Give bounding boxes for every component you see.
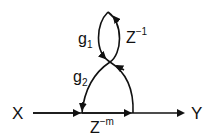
g2-arrow <box>82 102 83 109</box>
forward-delay-label: Z−m <box>90 116 114 136</box>
right-arc <box>110 62 133 113</box>
output-node-label: Y <box>191 104 202 123</box>
z-inv-label: Z−1 <box>126 26 148 46</box>
g2-label: g2 <box>73 68 88 88</box>
z-inv-arc <box>108 12 120 62</box>
input-node-label: X <box>12 104 23 123</box>
g1-label: g1 <box>78 30 93 50</box>
feedback-arcs <box>82 62 133 113</box>
self-loop <box>99 12 120 62</box>
g1-arc <box>99 12 111 62</box>
signal-flow-diagram: X Y g1 Z−1 g2 Z−m <box>0 0 214 136</box>
